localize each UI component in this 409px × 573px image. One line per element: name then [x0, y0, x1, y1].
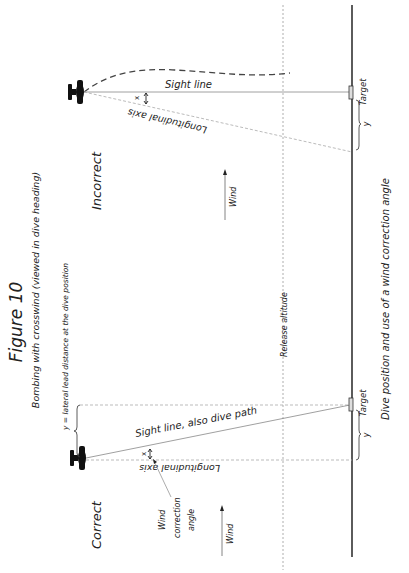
airplane-icon — [70, 446, 86, 470]
lead-y-label: y — [362, 432, 371, 438]
sight-line-label: Sight line — [165, 79, 212, 90]
target-label: Target — [358, 78, 368, 106]
lead-brace — [356, 100, 361, 150]
sight-line-label: Sight line, also dive path — [134, 405, 258, 439]
angle-arrow-icon — [148, 449, 152, 459]
target-marker — [349, 398, 353, 411]
longitudinal-axis-label: Longitudinal axis — [127, 107, 208, 136]
wind-arrow-icon — [223, 169, 227, 175]
figure-title: Figure 10 — [6, 282, 26, 363]
figure-10-diagram: Release altitude Figure 10 Bombing with … — [0, 0, 409, 573]
release-altitude-label: Release altitude — [280, 292, 289, 357]
target-label: Target — [358, 389, 368, 417]
angle-arrow-icon — [144, 93, 148, 104]
longitudinal-axis-label: Longitudinal axis — [139, 463, 220, 474]
angle-x-label: x — [133, 96, 141, 100]
correct-panel: Correct Sight line, also dive path Longi… — [61, 263, 371, 556]
figure-caption: Dive position and use of a wind correcti… — [380, 178, 391, 420]
target-marker — [349, 86, 353, 99]
wind-correction-label: correction — [173, 497, 182, 538]
lead-brace — [356, 410, 361, 460]
wind-arrow-icon — [220, 505, 224, 511]
longitudinal-axis-line — [84, 92, 352, 152]
incorrect-label: Incorrect — [89, 151, 104, 210]
correct-label: Correct — [89, 500, 104, 549]
lead-definition-label: y = lateral lead distance at the dive po… — [61, 263, 70, 431]
wind-correction-label: angle — [187, 509, 196, 531]
wind-correction-label: Wind — [158, 509, 167, 530]
wind-label: Wind — [229, 186, 238, 207]
lead-y-label: y — [362, 121, 371, 127]
incorrect-panel: Incorrect Sight line Longitudinal axis x… — [68, 70, 371, 220]
angle-x-label: x — [140, 452, 148, 456]
airplane-icon — [68, 80, 84, 104]
wind-label: Wind — [226, 523, 235, 544]
figure-subtitle: Bombing with crosswind (viewed in dive h… — [30, 172, 41, 408]
